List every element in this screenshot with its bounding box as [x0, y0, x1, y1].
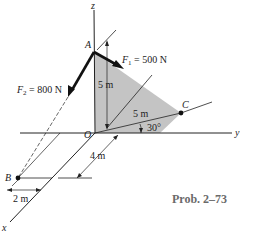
force-F1-label: F1 = 500 N — [121, 54, 167, 67]
line-above-A — [97, 30, 116, 50]
line-B-up — [18, 133, 60, 178]
z-axis — [94, 10, 95, 133]
point-C-label: C — [182, 99, 189, 110]
z-axis-label: z — [90, 0, 95, 11]
force-F2-label: F2 = 800 N — [16, 84, 62, 97]
point-B-label: B — [5, 172, 11, 183]
point-B — [16, 176, 21, 181]
dim-2m-label: 2 m — [13, 193, 29, 204]
force-F2-shaft — [72, 52, 94, 90]
B-tick — [12, 180, 18, 186]
x-axis-label: x — [1, 222, 7, 233]
F2-line-of-action — [18, 97, 68, 178]
dim-5m-vertical-label: 5 m — [98, 79, 114, 90]
x-axis — [10, 133, 95, 222]
point-O-label: O — [84, 129, 91, 140]
dim-2m-arrow-right — [36, 188, 41, 192]
problem-figure: z y x A C O B F1 = 500 N F2 = 800 N 5 m … — [0, 0, 253, 233]
problem-caption: Prob. 2–73 — [172, 192, 227, 206]
point-C — [179, 111, 184, 116]
dim-4m-label: 4 m — [90, 150, 106, 161]
angle-30-label: 30° — [147, 122, 161, 133]
point-A-label: A — [84, 39, 92, 50]
statics-diagram: z y x A C O B F1 = 500 N F2 = 800 N 5 m … — [0, 0, 253, 233]
dim-5m-OC-label: 5 m — [133, 108, 149, 119]
y-axis-label: y — [234, 127, 240, 138]
dim-2m-arrow-left — [7, 188, 12, 192]
